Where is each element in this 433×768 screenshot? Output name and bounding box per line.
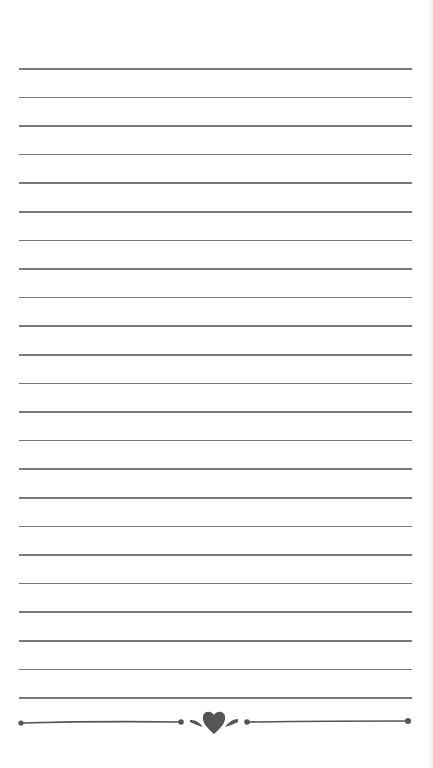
ruled-line — [19, 268, 412, 270]
heart-divider-icon — [0, 700, 433, 740]
ruled-line — [19, 554, 412, 556]
ruled-line — [19, 411, 412, 413]
ruled-line — [19, 640, 412, 642]
ruled-line — [19, 68, 412, 70]
ruled-line — [19, 182, 412, 184]
ruled-line — [19, 240, 412, 242]
ruled-line — [19, 383, 412, 385]
ruled-line — [19, 211, 412, 213]
ruled-line — [19, 526, 412, 528]
ruled-line — [19, 354, 412, 356]
ruled-line — [19, 669, 412, 671]
ruled-line — [19, 125, 412, 127]
ruled-line — [19, 468, 412, 470]
ruled-line — [19, 325, 412, 327]
lined-paper — [0, 0, 433, 768]
ruled-line — [19, 611, 412, 613]
ruled-line — [19, 583, 412, 585]
ruled-line — [19, 154, 412, 156]
ruled-line — [19, 97, 412, 99]
ruled-line — [19, 440, 412, 442]
ruled-line — [19, 297, 412, 299]
ruled-line — [19, 497, 412, 499]
page-edge-shadow — [427, 0, 433, 768]
ruled-line — [19, 697, 412, 699]
